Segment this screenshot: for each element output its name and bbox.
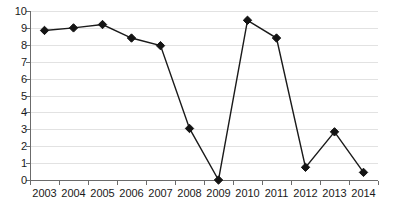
data-point-marker <box>40 26 48 34</box>
data-point-marker <box>185 124 193 132</box>
data-series-layer <box>0 0 394 207</box>
series-line <box>45 20 364 180</box>
data-point-marker <box>98 20 106 28</box>
data-point-marker <box>127 34 135 42</box>
data-point-marker <box>214 176 222 184</box>
data-point-marker <box>156 41 164 49</box>
data-point-marker <box>243 16 251 24</box>
line-chart: 012345678910 200320042005200620072008200… <box>0 0 394 207</box>
data-point-marker <box>272 34 280 42</box>
data-point-marker <box>69 24 77 32</box>
series-markers <box>40 16 367 184</box>
